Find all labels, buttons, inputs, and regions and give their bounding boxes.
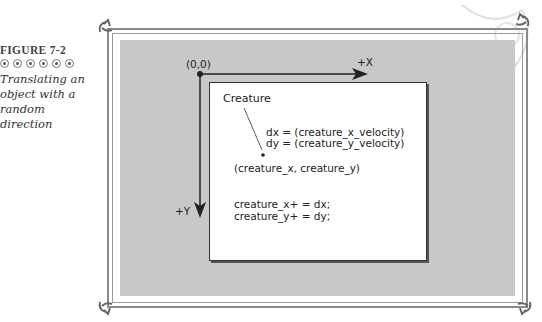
x-axis-label: +X [357, 56, 373, 68]
position-dot [261, 153, 265, 157]
position-label: (creature_x, creature_y) [234, 162, 360, 174]
y-axis-label: +Y [175, 205, 190, 217]
velocity-text: dx = (creature_x_velocity) dy = (creatur… [266, 127, 404, 149]
axes [0, 0, 542, 322]
origin-dot [197, 71, 203, 77]
object-label: Creature [223, 92, 271, 105]
code-text: creature_x+ = dx; creature_y+ = dy; [234, 198, 330, 222]
origin-label: (0,0) [186, 58, 211, 70]
